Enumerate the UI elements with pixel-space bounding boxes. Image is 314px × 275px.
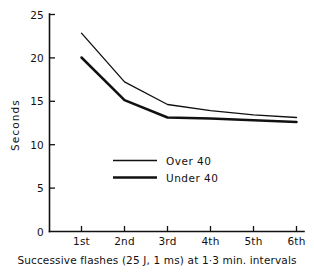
y-tick-label-0: 0 xyxy=(37,226,44,238)
x-axis-caption: Successive flashes (25 J, 1 ms) at 1·3 m… xyxy=(17,254,296,266)
x-tick-label-6th: 6th xyxy=(287,235,305,247)
y-axis-title: Seconds xyxy=(9,99,21,151)
x-tick-label-5th: 5th xyxy=(244,235,262,247)
x-tick-label-3rd: 3rd xyxy=(158,235,176,247)
legend-label-under-40: Under 40 xyxy=(166,172,218,184)
y-tick-label-15: 15 xyxy=(30,95,44,107)
y-tick-label-20: 20 xyxy=(30,52,44,64)
chart-background xyxy=(0,0,314,275)
y-tick-label-5: 5 xyxy=(37,182,44,194)
x-tick-label-2nd: 2nd xyxy=(114,235,135,247)
x-tick-label-4th: 4th xyxy=(201,235,219,247)
line-chart: 25 20 15 10 5 0 Seconds 1st 2nd 3rd 4th … xyxy=(0,0,314,275)
legend-label-over-40: Over 40 xyxy=(166,155,211,167)
y-tick-label-10: 10 xyxy=(30,139,44,151)
y-tick-label-25: 25 xyxy=(30,9,44,21)
figure-container: 25 20 15 10 5 0 Seconds 1st 2nd 3rd 4th … xyxy=(0,0,314,275)
x-tick-label-1st: 1st xyxy=(73,235,90,247)
